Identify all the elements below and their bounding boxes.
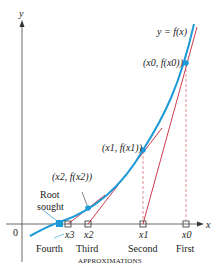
caption: APPROXIMATIONS <box>78 257 142 265</box>
y-axis-label: y <box>18 8 24 19</box>
approx-fourth: Fourth <box>36 243 63 254</box>
x3-label: x3 <box>64 229 74 240</box>
x1-label: x1 <box>138 229 148 240</box>
point-label-x0: (x0, f(x0)) <box>143 57 184 69</box>
x0-label: x0 <box>181 229 191 240</box>
approx-second: Second <box>128 243 157 254</box>
point-x0 <box>183 60 189 66</box>
newton-method-diagram: y x 0 y = f(x) (x0, f(x0)) (x1, f(x1)) (… <box>0 0 218 267</box>
root-marker <box>56 220 63 227</box>
y-axis-arrow-icon <box>20 20 25 27</box>
point-x2 <box>85 205 91 211</box>
approx-third: Third <box>76 243 98 254</box>
point-label-x2: (x2, f(x2)) <box>52 171 93 183</box>
approx-first: First <box>176 243 195 254</box>
point-label-x1: (x1, f(x1)) <box>102 142 143 154</box>
pointer-x2 <box>82 192 87 205</box>
root-label-line1: Root <box>40 189 60 200</box>
x2-label: x2 <box>83 229 93 240</box>
curve-label: y = f(x) <box>156 26 188 38</box>
x-axis-arrow-icon <box>197 222 204 227</box>
root-label-line2: sought <box>37 201 64 212</box>
origin-label: 0 <box>13 227 18 238</box>
x-axis-label: x <box>205 219 211 230</box>
pointer-x3 <box>54 234 64 238</box>
